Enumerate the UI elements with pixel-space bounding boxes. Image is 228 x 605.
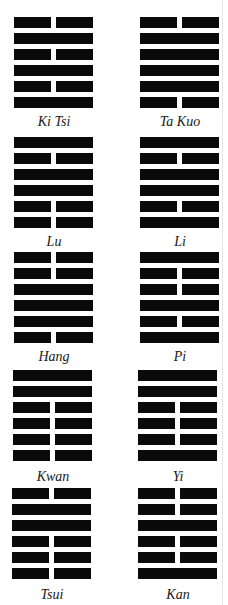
broken-line [13,402,93,413]
solid-line [140,252,220,263]
broken-line [140,316,220,327]
broken-line [138,552,218,563]
line-segment [180,536,217,547]
line-segment [138,418,175,429]
line-segment [14,268,51,279]
line-segment [14,97,93,108]
line-segment [14,332,51,343]
line-segment [14,153,51,164]
solid-line [138,386,218,397]
hexagram-ta-kuo: Ta Kuo [140,17,220,108]
hexagram-label: Kan [128,587,228,603]
line-segment [14,137,93,148]
solid-line [14,65,94,76]
broken-line [140,268,220,279]
line-segment [56,17,93,28]
hexagram-kan: Kan [138,488,218,579]
broken-line [140,284,220,295]
hexagram-hang: Hang [14,252,94,343]
broken-line [14,217,94,228]
broken-line [14,81,94,92]
line-segment [14,201,51,212]
hexagram-label: Tsui [2,587,102,603]
solid-line [138,370,218,381]
solid-line [140,33,220,44]
broken-line [140,153,220,164]
broken-line [138,488,218,499]
line-segment [12,520,91,531]
broken-line [138,504,218,515]
hexagram-label: Yi [128,469,228,485]
line-segment [138,434,175,445]
line-segment [182,17,219,28]
line-segment [138,370,217,381]
line-segment [182,97,219,108]
broken-line [12,488,92,499]
solid-line [14,137,94,148]
line-segment [56,201,93,212]
line-segment [180,552,217,563]
line-segment [140,169,219,180]
line-segment [140,185,219,196]
broken-line [14,153,94,164]
solid-line [140,217,220,228]
broken-line [14,268,94,279]
line-segment [14,185,93,196]
line-segment [14,65,93,76]
solid-line [140,65,220,76]
line-segment [56,252,93,263]
line-segment [182,268,219,279]
hexagram-figure [138,370,218,461]
line-segment [140,284,177,295]
line-segment [13,370,92,381]
broken-line [138,434,218,445]
hexagram-pi: Pi [140,252,220,343]
line-segment [12,504,91,515]
hexagram-figure [140,137,220,228]
broken-line [138,402,218,413]
line-segment [138,520,217,531]
hexagram-figure [14,137,94,228]
hexagram-tsui: Tsui [12,488,92,579]
line-segment [14,169,93,180]
line-segment [14,284,93,295]
line-segment [140,201,177,212]
broken-line [140,201,220,212]
line-segment [140,332,219,343]
line-segment [138,536,175,547]
solid-line [140,169,220,180]
broken-line [140,97,220,108]
line-segment [180,402,217,413]
line-segment [56,153,93,164]
line-segment [138,386,217,397]
line-segment [14,49,51,60]
broken-line [13,434,93,445]
broken-line [13,450,93,461]
line-segment [180,418,217,429]
broken-line [14,332,94,343]
line-segment [13,434,50,445]
line-segment [180,434,217,445]
broken-line [12,552,92,563]
solid-line [12,520,92,531]
line-segment [140,268,177,279]
line-segment [12,552,49,563]
solid-line [140,300,220,311]
line-segment [14,33,93,44]
line-segment [12,488,49,499]
line-segment [55,434,92,445]
solid-line [14,169,94,180]
hexagram-figure [140,252,220,343]
line-segment [182,153,219,164]
hexagram-label: Pi [130,349,228,365]
line-segment [140,97,177,108]
line-segment [55,450,92,461]
line-segment [14,300,93,311]
solid-line [14,300,94,311]
line-segment [12,568,49,579]
line-segment [138,402,175,413]
hexagram-label: Ki Tsi [4,114,104,130]
hexagram-figure [13,370,93,461]
line-segment [182,284,219,295]
line-segment [54,488,91,499]
